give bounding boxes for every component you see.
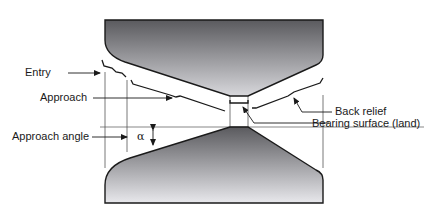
label-approach-angle: Approach angle (12, 130, 89, 142)
label-bearing-surface: Bearing surface (land) (312, 117, 420, 129)
label-back-relief: Back relief (335, 105, 387, 117)
label-approach: Approach (40, 91, 87, 103)
die-diagram: Entry Approach Approach angle α Back rel… (0, 0, 424, 216)
label-entry: Entry (25, 66, 51, 78)
top-die-block (105, 20, 323, 96)
label-alpha: α (137, 130, 145, 143)
back-relief-leader (294, 98, 332, 112)
